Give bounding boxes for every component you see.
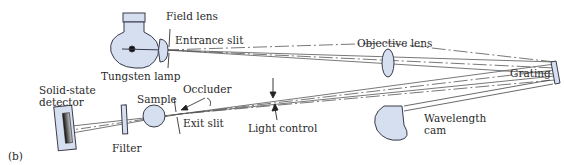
field-lens [159,39,169,62]
filter [121,105,128,134]
light-control-arrows [270,78,278,120]
detector-label-1: Solid-state [39,84,96,96]
occluder-label: Occluder [183,83,231,95]
tungsten-lamp [111,13,165,68]
wavelength-cam-label-2: cam [424,124,446,136]
wavelength-cam-label-1: Wavelength [424,112,486,124]
wavelength-cam [375,106,408,140]
panel-label: (b) [8,150,23,162]
entrance-slit-label: Entrance slit [175,34,243,46]
field-lens-label: Field lens [166,10,218,22]
objective-lens [382,49,394,77]
sample [143,105,165,127]
detector-label-2: detector [39,96,84,108]
solid-state-detector [54,105,77,151]
spectrophotometer-diagram [0,0,564,165]
tungsten-lamp-label: Tungsten lamp [101,70,180,82]
exit-slit-label: Exit slit [183,117,224,129]
occluder-pointer [181,98,211,110]
cam-arm [404,80,553,111]
sample-label: Sample [137,93,177,105]
filter-label: Filter [112,142,141,154]
grating-label: Grating [510,67,551,79]
objective-lens-label: Objective lens [357,37,432,49]
light-control-label: Light control [248,122,317,134]
